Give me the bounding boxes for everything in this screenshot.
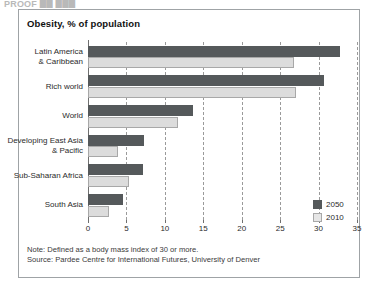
category-label: Developing East Asia& Pacific xyxy=(0,136,83,155)
bar-2050 xyxy=(88,105,193,116)
x-tick-label-30: 30 xyxy=(314,224,323,233)
tickmark-0 xyxy=(88,220,89,223)
x-tick-label-5: 5 xyxy=(124,224,128,233)
legend-item-2010[interactable]: 2010 xyxy=(313,212,344,223)
bar-2010 xyxy=(88,206,109,217)
bar-2010 xyxy=(88,176,129,187)
x-tick-label-20: 20 xyxy=(237,224,246,233)
chart-source: Source: Pardee Centre for International … xyxy=(27,255,260,265)
bar-2010 xyxy=(88,57,294,68)
category-label: World xyxy=(0,111,83,121)
tickmark-35 xyxy=(357,220,358,223)
chart-footnotes: Note: Defined as a body mass index of 30… xyxy=(27,245,260,265)
category-label: Latin America& Caribbean xyxy=(0,47,83,66)
category-label: Rich world xyxy=(0,82,83,92)
tickmark-15 xyxy=(203,220,204,223)
clipped-header-text: PROOF ██ ███ xyxy=(0,0,376,8)
bar-2050 xyxy=(88,135,144,146)
tickmark-25 xyxy=(280,220,281,223)
bar-2010 xyxy=(88,117,178,128)
bar-2050 xyxy=(88,194,123,205)
x-tick-label-35: 35 xyxy=(353,224,362,233)
bar-group: World xyxy=(88,101,357,131)
legend-swatch-2050 xyxy=(313,200,322,209)
bar-2050 xyxy=(88,164,143,175)
legend-swatch-2010 xyxy=(313,213,322,222)
x-tick-label-0: 0 xyxy=(86,224,90,233)
tickmark-5 xyxy=(126,220,127,223)
chart-panel: Obesity, % of population Latin America& … xyxy=(18,9,360,278)
x-tick-label-10: 10 xyxy=(160,224,169,233)
tickmark-20 xyxy=(242,220,243,223)
bar-2010 xyxy=(88,146,118,157)
chart-title: Obesity, % of population xyxy=(27,18,140,29)
legend-label: 2050 xyxy=(326,200,344,209)
chart-note: Note: Defined as a body mass index of 30… xyxy=(27,245,260,255)
category-label: Sub-Saharan Africa xyxy=(0,171,83,181)
legend-item-2050[interactable]: 2050 xyxy=(313,199,344,210)
bar-group: Latin America& Caribbean xyxy=(88,42,357,72)
plot-area: Latin America& CaribbeanRich worldWorldD… xyxy=(88,42,357,220)
legend-label: 2010 xyxy=(326,213,344,222)
category-label: South Asia xyxy=(0,200,83,210)
bar-2050 xyxy=(88,75,324,86)
bar-group: Rich world xyxy=(88,72,357,102)
bar-2010 xyxy=(88,87,296,98)
tickmark-10 xyxy=(165,220,166,223)
gridline-35 xyxy=(357,42,358,220)
bar-group: Developing East Asia& Pacific xyxy=(88,131,357,161)
bar-group: Sub-Saharan Africa xyxy=(88,161,357,191)
x-tick-label-25: 25 xyxy=(276,224,285,233)
x-tick-label-15: 15 xyxy=(199,224,208,233)
bar-2050 xyxy=(88,46,340,57)
chart-legend: 20502010 xyxy=(313,199,344,225)
